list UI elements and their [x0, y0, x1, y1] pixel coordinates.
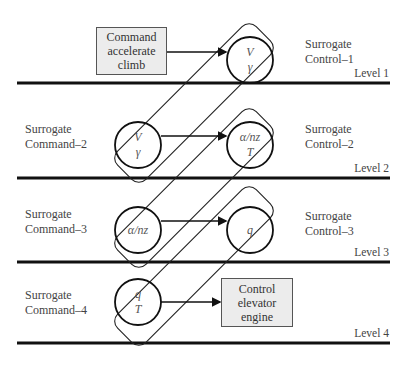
- node-var: γ: [136, 145, 141, 160]
- level-4-label: Level 4: [354, 327, 389, 339]
- command-box: Command accelerate climb: [96, 27, 167, 75]
- node-l2-control: α/nz T: [227, 122, 273, 168]
- node-var: T: [247, 145, 254, 160]
- level-2-label: Level 2: [354, 162, 389, 174]
- node-l2-command: V γ: [115, 122, 161, 168]
- surrogate-command-3-label: Surrogate Command–3: [25, 207, 87, 237]
- surrogate-control-2-label: Surrogate Control–2: [305, 122, 354, 152]
- node-var: V: [246, 45, 253, 60]
- node-l1-control: V γ: [227, 37, 273, 83]
- node-l3-control: q: [227, 207, 273, 253]
- node-var: T: [135, 302, 142, 317]
- surrogate-control-3-label: Surrogate Control–3: [305, 209, 354, 239]
- surrogate-command-4-label: Surrogate Command–4: [25, 288, 87, 318]
- node-var: α/nz: [240, 130, 260, 145]
- node-var: γ: [248, 60, 253, 75]
- node-var: V: [134, 130, 141, 145]
- surrogate-control-1-label: Surrogate Control–1: [305, 37, 354, 67]
- control-box: Control elevator engine: [221, 278, 293, 327]
- level-3-label: Level 3: [354, 246, 389, 258]
- node-l3-command: α/nz: [115, 207, 161, 253]
- level-1-label: Level 1: [354, 67, 389, 79]
- surrogate-command-2-label: Surrogate Command–2: [25, 122, 87, 152]
- node-var: q: [247, 223, 253, 238]
- node-var: α/nz: [128, 223, 148, 238]
- node-var: q: [135, 287, 141, 302]
- node-l4-command: q T: [115, 279, 161, 325]
